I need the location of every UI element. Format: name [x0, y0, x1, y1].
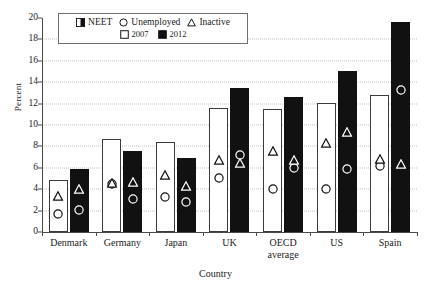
marker-triangle-2007 — [267, 145, 278, 156]
x-axis-category-label: Spain — [379, 237, 402, 249]
triangle-icon — [187, 18, 196, 27]
legend-label-2012: 2012 — [170, 29, 187, 40]
x-axis-category-label: Germany — [104, 237, 141, 249]
y-axis-tick-mark — [38, 125, 42, 126]
open-square-icon — [120, 30, 129, 39]
x-axis-tick-mark — [310, 232, 311, 236]
legend-item-unemployed: Unemployed — [119, 17, 180, 28]
marker-circle-2007 — [267, 183, 278, 194]
legend-label-neet: NEET — [88, 17, 112, 28]
bar-2012[interactable] — [284, 97, 303, 232]
marker-triangle-2012 — [288, 154, 299, 165]
filled-square-icon — [158, 30, 167, 39]
marker-circle-2012 — [342, 163, 353, 174]
bar-2007[interactable] — [156, 142, 175, 232]
legend-item-2012: 2012 — [158, 29, 187, 40]
x-axis-tick-mark — [42, 232, 43, 236]
x-axis-category-label: UK — [222, 237, 236, 249]
y-axis-tick-label: 6 — [14, 163, 38, 173]
x-axis-tick-label: Germany — [104, 237, 141, 248]
bar-2012[interactable] — [338, 71, 357, 232]
y-axis-tick-mark — [38, 146, 42, 147]
marker-triangle-2007 — [160, 169, 171, 180]
bar-group — [310, 18, 364, 232]
marker-circle-2007 — [53, 208, 64, 219]
marker-triangle-2007 — [374, 154, 385, 165]
marker-circle-2012 — [127, 194, 138, 205]
bar-2007[interactable] — [209, 108, 228, 232]
legend-row-years: 2007 2012 — [63, 29, 243, 40]
x-axis-tick-label: Japan — [165, 237, 188, 248]
marker-triangle-2012 — [342, 127, 353, 138]
x-axis-tick-label: US — [330, 237, 343, 248]
x-axis-category-label: Japan — [165, 237, 188, 249]
bar-group — [256, 18, 310, 232]
y-axis-tick-mark — [38, 103, 42, 104]
marker-circle-2007 — [213, 173, 224, 184]
marker-triangle-2012 — [234, 158, 245, 169]
x-axis-line — [42, 232, 417, 233]
legend-label-2007: 2007 — [132, 29, 149, 40]
chart-figure: Percent 20181614121086420 DenmarkGermany… — [0, 0, 431, 293]
x-axis-tick-label: UK — [222, 237, 236, 248]
bar-2007[interactable] — [263, 109, 282, 232]
bar-group — [96, 18, 150, 232]
bar-2012[interactable] — [123, 151, 142, 232]
legend-label-inactive: Inactive — [199, 17, 230, 28]
bar-2012[interactable] — [230, 88, 249, 232]
y-axis-tick-mark — [38, 60, 42, 61]
x-axis-title: Country — [0, 268, 431, 279]
y-axis-tick-mark — [38, 210, 42, 211]
bar-group — [203, 18, 257, 232]
chart-legend: NEET Unemployed Inactive 2007 — [58, 13, 248, 44]
y-axis-tick-label: 8 — [14, 142, 38, 152]
x-axis-tick-label: Spain — [379, 237, 402, 248]
legend-item-inactive: Inactive — [187, 17, 230, 28]
bar-2012[interactable] — [70, 169, 89, 232]
x-axis-tick-mark — [149, 232, 150, 236]
legend-row-measures: NEET Unemployed Inactive — [63, 17, 243, 28]
circle-icon — [119, 18, 128, 27]
y-axis-tick-label: 4 — [14, 184, 38, 194]
x-axis-category-label: OECDaverage — [268, 237, 299, 260]
y-axis-tick-label: 16 — [14, 56, 38, 66]
bar-2007[interactable] — [102, 139, 121, 232]
x-axis-tick-mark — [417, 232, 418, 236]
y-axis-tick-label: 10 — [14, 120, 38, 130]
bar-2007[interactable] — [49, 180, 68, 232]
y-axis-tick-mark — [38, 167, 42, 168]
x-axis-tick-label-2: average — [268, 249, 299, 261]
y-axis-tick-label: 18 — [14, 35, 38, 45]
x-axis-tick-label: OECD — [269, 237, 296, 248]
marker-triangle-2007 — [53, 190, 64, 201]
bar-2007[interactable] — [370, 95, 389, 232]
legend-item-2007: 2007 — [120, 29, 149, 40]
y-axis-tick-mark — [38, 39, 42, 40]
marker-triangle-2012 — [127, 176, 138, 187]
legend-label-unemployed: Unemployed — [131, 17, 180, 28]
marker-circle-2007 — [321, 184, 332, 195]
marker-circle-2012 — [74, 204, 85, 215]
bar-group — [42, 18, 96, 232]
bar-2012[interactable] — [177, 158, 196, 232]
y-axis-tick-label: 2 — [14, 206, 38, 216]
x-axis-tick-mark — [203, 232, 204, 236]
y-axis-tick-label: 0 — [14, 227, 38, 237]
legend-item-neet: NEET — [76, 17, 112, 28]
y-axis-tick-mark — [38, 18, 42, 19]
y-axis-tick-mark — [38, 82, 42, 83]
x-axis-tick-label: Denmark — [50, 237, 87, 248]
bar-2007[interactable] — [317, 103, 336, 232]
x-axis-tick-mark — [256, 232, 257, 236]
x-axis-category-label: US — [330, 237, 343, 249]
bar-2012[interactable] — [391, 22, 410, 232]
half-filled-square-icon — [76, 18, 85, 27]
plot-area — [42, 18, 417, 232]
marker-triangle-2012 — [395, 158, 406, 169]
marker-triangle-2007 — [106, 178, 117, 189]
y-axis-ticks: 20181614121086420 — [10, 0, 38, 293]
y-axis-tick-label: 20 — [14, 13, 38, 23]
y-axis-tick-label: 12 — [14, 99, 38, 109]
x-axis-category-label: Denmark — [50, 237, 87, 249]
marker-triangle-2007 — [321, 138, 332, 149]
